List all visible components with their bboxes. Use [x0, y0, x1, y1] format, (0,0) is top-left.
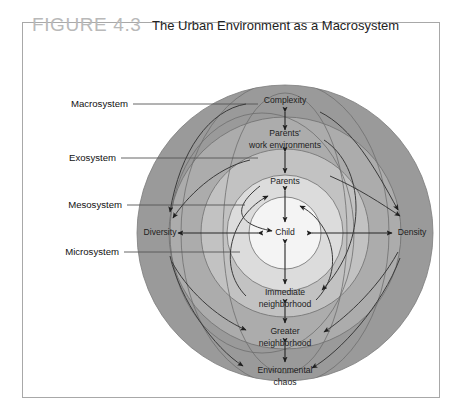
- system-label-microsystem: Microsystem: [65, 246, 119, 257]
- node-parents: Parents: [270, 176, 300, 186]
- node-greater-line1: Greater: [270, 326, 299, 336]
- node-immediate-line1: Immediate: [265, 287, 305, 297]
- system-label-mesosystem: Mesosystem: [68, 199, 122, 210]
- macrosystem-diagram: Macrosystem Exosystem Mesosystem Microsy…: [0, 0, 463, 417]
- node-greater-line2: neighborhood: [259, 338, 312, 348]
- node-child: Child: [275, 227, 295, 237]
- node-chaos-line1: Environmental: [258, 365, 313, 375]
- node-immediate-line2: neighborhood: [259, 299, 312, 309]
- system-label-group: Macrosystem Exosystem Mesosystem Microsy…: [65, 98, 128, 257]
- system-label-exosystem: Exosystem: [69, 152, 116, 163]
- node-parents-work-line2: work environments: [248, 140, 321, 150]
- node-diversity: Diversity: [144, 227, 178, 237]
- node-chaos-line2: chaos: [274, 377, 297, 387]
- node-parents-work-line1: Parents': [269, 128, 301, 138]
- node-density: Density: [398, 227, 427, 237]
- system-label-macrosystem: Macrosystem: [71, 98, 128, 109]
- node-complexity: Complexity: [264, 95, 307, 105]
